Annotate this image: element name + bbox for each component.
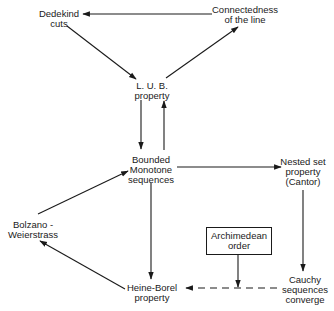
node-label-line: order: [211, 241, 267, 251]
node-label-line: (Cantor): [280, 177, 325, 187]
node-heine-borel-property: Heine-Borel property: [127, 283, 177, 303]
node-archimedean-order: Archimedean order: [206, 227, 272, 255]
node-nested-set-property: Nested set property (Cantor): [280, 157, 325, 187]
node-lub-property: L. U. B. property: [135, 81, 170, 101]
node-cauchy-sequences-converge: Cauchy sequences converge: [282, 275, 328, 305]
node-label-line: cuts: [39, 19, 79, 29]
node-dedekind-cuts: Dedekind cuts: [39, 9, 79, 29]
node-label-line: converge: [282, 295, 328, 305]
edge-lub-to-connectedness: [166, 27, 238, 78]
node-bounded-monotone-sequences: Bounded Monotone sequences: [128, 155, 174, 185]
edge-heine-borel-to-bolzano: [40, 241, 125, 289]
node-bolzano-weierstrass: Bolzano - Weierstrass: [8, 220, 58, 240]
node-label-line: of the line: [212, 15, 278, 25]
edge-bolzano-to-bounded-monotone: [38, 171, 128, 214]
node-label-line: property: [127, 293, 177, 303]
edge-dedekind-to-lub: [67, 26, 136, 79]
node-label-line: property: [135, 91, 170, 101]
node-label-line: Weierstrass: [8, 230, 58, 240]
node-label-line: sequences: [128, 175, 174, 185]
node-connectedness-of-the-line: Connectedness of the line: [212, 5, 278, 25]
